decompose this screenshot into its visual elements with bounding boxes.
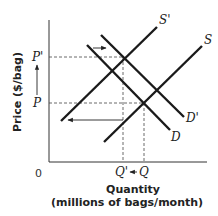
supply-curve-s-prime	[61, 27, 157, 121]
supply-curve-s	[104, 46, 202, 142]
s-label: S	[204, 33, 212, 47]
supply-demand-diagram: S' S D' D P' P Q' Q 0 Price ($/bag) Quan…	[0, 0, 218, 216]
d-label: D	[170, 130, 181, 144]
q-prime-label: Q'	[115, 165, 128, 179]
p-label: P	[32, 96, 42, 110]
y-axis-label: Price ($/bag)	[11, 52, 24, 132]
origin-label: 0	[35, 167, 42, 180]
s-prime-label: S'	[159, 13, 171, 27]
p-prime-label: P'	[31, 50, 43, 64]
q-label: Q	[139, 165, 149, 179]
d-prime-label: D'	[185, 111, 199, 125]
x-axis-label-line1: Quantity	[106, 183, 160, 196]
x-axis-label-line2: (millions of bags/month)	[51, 196, 203, 209]
